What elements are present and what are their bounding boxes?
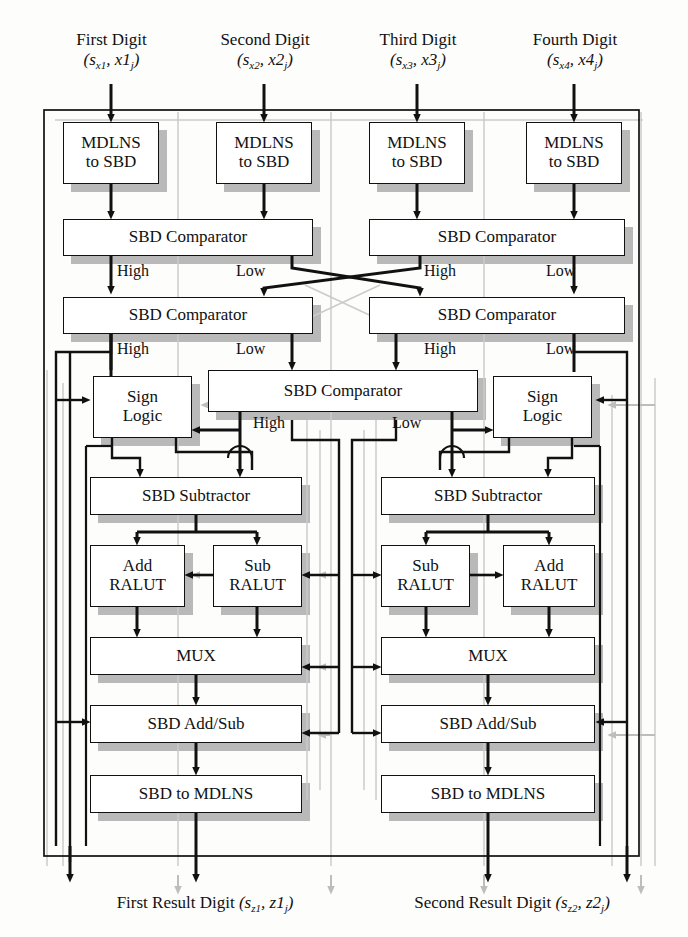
block-label-line2: Logic	[523, 407, 563, 426]
signal-label-low-b2: Low	[546, 340, 575, 358]
block-label-line1: SBD Comparator	[438, 306, 557, 325]
block-label-line1: MDLNS	[234, 134, 294, 153]
block-sbd-to-mdlns-left[interactable]: SBD to MDLNS	[90, 775, 302, 813]
block-sbd-to-mdlns-right[interactable]: SBD to MDLNS	[381, 775, 595, 813]
block-label-line1: Add	[123, 557, 152, 576]
block-label-line1: SBD Add/Sub	[148, 715, 245, 734]
input-arrows	[111, 84, 574, 118]
input-sub-first-digit: (sx1, x1j)	[34, 50, 189, 72]
input-sub-fourth-digit: (sx4, x4j)	[496, 50, 654, 72]
block-label-line1: MDLNS	[81, 134, 141, 153]
input-title-fourth-digit: Fourth Digit	[496, 30, 654, 50]
block-sbd-comparator-a2[interactable]: SBD Comparator	[369, 219, 625, 256]
block-label-line1: Sign	[127, 388, 158, 407]
block-label-line1: SBD Comparator	[129, 228, 248, 247]
block-sign-logic-right[interactable]: Sign Logic	[493, 376, 592, 438]
block-label-line1: Sub	[412, 557, 438, 576]
signal-label-high-a2: High	[424, 262, 456, 280]
input-label-first-digit: First Digit (sx1, x1j)	[34, 30, 189, 72]
block-label-line1: SBD Comparator	[284, 382, 403, 401]
block-sign-logic-left[interactable]: Sign Logic	[93, 376, 192, 438]
block-label-line1: Sign	[527, 388, 558, 407]
input-title-third-digit: Third Digit	[344, 30, 492, 50]
output-sub-second-result: (sz2, z2j)	[555, 893, 609, 912]
block-sbd-add-sub-left[interactable]: SBD Add/Sub	[90, 705, 302, 743]
input-label-second-digit: Second Digit (sx2, x2j)	[185, 30, 345, 72]
output-sub-first-result: (sz1, z1j)	[239, 893, 293, 912]
block-sbd-add-sub-right[interactable]: SBD Add/Sub	[381, 705, 595, 743]
diagram-canvas: First Digit (sx1, x1j) Second Digit (sx2…	[0, 0, 688, 937]
signal-label-low-b1: Low	[236, 340, 265, 358]
block-mdlns-to-sbd-1[interactable]: MDLNS to SBD	[63, 122, 159, 184]
block-label-line2: to SBD	[549, 153, 600, 172]
input-label-fourth-digit: Fourth Digit (sx4, x4j)	[496, 30, 654, 72]
output-label-second-result-digit: Second Result Digit (sz2, z2j)	[352, 893, 672, 915]
centre-comparator-down-wires	[240, 430, 452, 473]
ralut-to-mux-wires	[137, 607, 549, 633]
block-sbd-comparator-b2[interactable]: SBD Comparator	[369, 297, 625, 334]
input-title-second-digit: Second Digit	[185, 30, 345, 50]
input-title-first-digit: First Digit	[34, 30, 189, 50]
block-mdlns-to-sbd-2[interactable]: MDLNS to SBD	[216, 122, 312, 184]
block-mdlns-to-sbd-4[interactable]: MDLNS to SBD	[526, 122, 622, 184]
block-sbd-subtractor-right[interactable]: SBD Subtractor	[381, 477, 595, 515]
block-sbd-subtractor-left[interactable]: SBD Subtractor	[90, 477, 302, 515]
signal-label-high-b1: High	[117, 340, 149, 358]
output-title-second-result: Second Result Digit	[414, 893, 551, 912]
wire-hop-arcs	[228, 446, 464, 458]
block-label-line2: Logic	[123, 407, 163, 426]
input-sub-third-digit: (sx3, x3j)	[344, 50, 492, 72]
block-label-line2: to SBD	[239, 153, 290, 172]
block-label-line2: to SBD	[392, 153, 443, 172]
block-label-line1: MDLNS	[544, 134, 604, 153]
block-label-line1: MDLNS	[387, 134, 447, 153]
block-label-line1: SBD to MDLNS	[431, 785, 545, 804]
result-output-wires	[196, 813, 488, 878]
block-add-ralut-left[interactable]: Add RALUT	[90, 545, 185, 607]
block-label-line2: to SBD	[86, 153, 137, 172]
mdlns-to-comparator-wires	[111, 184, 574, 215]
signal-label-high-c: High	[253, 414, 285, 432]
output-title-first-result: First Result Digit	[117, 893, 235, 912]
input-sub-second-digit: (sx2, x2j)	[185, 50, 345, 72]
signal-label-low-a2: Low	[546, 262, 575, 280]
block-label-line2: RALUT	[109, 576, 166, 595]
input-label-third-digit: Third Digit (sx3, x3j)	[344, 30, 492, 72]
block-label-line1: MUX	[176, 647, 216, 666]
block-label-line2: RALUT	[521, 576, 578, 595]
block-label-line2: RALUT	[229, 576, 286, 595]
block-label-line1: SBD Comparator	[438, 228, 557, 247]
block-label-line1: Add	[534, 557, 563, 576]
block-sbd-comparator-a1[interactable]: SBD Comparator	[63, 219, 313, 256]
block-sub-ralut-left[interactable]: Sub RALUT	[213, 545, 302, 607]
block-label-line2: RALUT	[397, 576, 454, 595]
output-label-first-result-digit: First Result Digit (sz1, z1j)	[60, 893, 350, 915]
block-mux-left[interactable]: MUX	[90, 637, 302, 675]
block-label-line1: SBD Add/Sub	[440, 715, 537, 734]
block-label-line1: Sub	[244, 557, 270, 576]
signal-label-high-a1: High	[117, 262, 149, 280]
block-mux-right[interactable]: MUX	[381, 637, 595, 675]
block-label-line1: SBD Comparator	[129, 306, 248, 325]
block-sbd-comparator-b1[interactable]: SBD Comparator	[63, 297, 313, 334]
signal-label-low-a1: Low	[236, 262, 265, 280]
block-sbd-comparator-c[interactable]: SBD Comparator	[208, 370, 478, 412]
block-add-ralut-right[interactable]: Add RALUT	[503, 545, 595, 607]
signal-label-high-b2: High	[424, 340, 456, 358]
block-mdlns-to-sbd-3[interactable]: MDLNS to SBD	[369, 122, 465, 184]
block-label-line1: SBD to MDLNS	[139, 785, 253, 804]
block-sub-ralut-right[interactable]: Sub RALUT	[381, 545, 470, 607]
block-label-line1: SBD Subtractor	[434, 487, 542, 506]
block-label-line1: MUX	[468, 647, 508, 666]
block-label-line1: SBD Subtractor	[142, 487, 250, 506]
signal-label-low-c: Low	[392, 414, 421, 432]
